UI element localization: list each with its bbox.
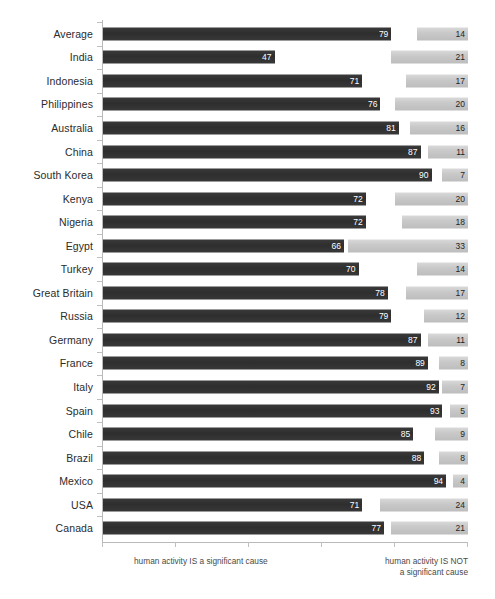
- bar-positive: 72: [103, 216, 366, 229]
- bar-positive: 88: [103, 451, 424, 464]
- bar-negative: 20: [395, 192, 468, 205]
- category-label: France: [60, 358, 93, 369]
- y-axis-tick: [97, 493, 102, 494]
- category-label: Brazil: [66, 452, 93, 463]
- bar-negative: 8: [439, 451, 468, 464]
- bar-negative: 4: [453, 475, 468, 488]
- category-label: Nigeria: [59, 217, 93, 228]
- chart-row: Nigeria7218: [0, 210, 495, 234]
- bar-negative: 17: [406, 286, 468, 299]
- y-axis-tick: [97, 399, 102, 400]
- bar-positive: 90: [103, 169, 432, 182]
- bar-positive: 94: [103, 475, 446, 488]
- category-label: Great Britain: [33, 288, 93, 299]
- category-label: Canada: [56, 523, 93, 534]
- chart-row: Great Britain7817: [0, 281, 495, 305]
- bar-negative: 20: [395, 98, 468, 111]
- bar-negative: 9: [435, 428, 468, 441]
- bar-negative: 21: [391, 51, 468, 64]
- bar-positive: 79: [103, 27, 391, 40]
- y-axis-tick: [97, 187, 102, 188]
- bar-positive: 72: [103, 192, 366, 205]
- chart-row: Germany8711: [0, 328, 495, 352]
- bar-positive: 93: [103, 404, 442, 417]
- bar-negative: 16: [410, 121, 468, 134]
- category-label: USA: [71, 499, 93, 510]
- y-axis-tick: [97, 210, 102, 211]
- chart-row: Kenya7220: [0, 187, 495, 211]
- y-axis-tick: [97, 469, 102, 470]
- category-label: Average: [53, 29, 93, 40]
- chart-row: Brazil888: [0, 446, 495, 470]
- chart-row: India4721: [0, 46, 495, 70]
- chart-row: Mexico944: [0, 469, 495, 493]
- bar-positive: 79: [103, 310, 391, 323]
- y-axis-tick: [97, 375, 102, 376]
- y-axis-tick: [97, 140, 102, 141]
- chart-row: Canada7721: [0, 516, 495, 540]
- category-label: Philippines: [41, 99, 93, 110]
- bar-negative: 7: [442, 169, 468, 182]
- y-axis-tick: [97, 446, 102, 447]
- axis-caption-right-line1: human activity IS NOT: [348, 556, 468, 567]
- bar-negative: 8: [439, 357, 468, 370]
- bar-positive: 89: [103, 357, 428, 370]
- bar-positive: 85: [103, 428, 413, 441]
- bar-positive: 71: [103, 498, 362, 511]
- y-axis-tick: [97, 305, 102, 306]
- bar-positive: 81: [103, 121, 399, 134]
- category-label: Russia: [60, 311, 93, 322]
- bar-negative: 18: [402, 216, 468, 229]
- category-label: Spain: [66, 405, 93, 416]
- axis-caption-right: human activity IS NOT a significant caus…: [348, 556, 468, 578]
- axis-caption-right-line2: a significant cause: [348, 567, 468, 578]
- bar-negative: 14: [417, 263, 468, 276]
- category-label: Australia: [51, 123, 93, 134]
- bar-positive: 66: [103, 239, 344, 252]
- x-axis-line: [102, 542, 468, 543]
- chart-row: France898: [0, 352, 495, 376]
- y-axis-tick: [97, 46, 102, 47]
- category-label: South Korea: [34, 170, 93, 181]
- y-axis-tick: [97, 116, 102, 117]
- chart-row: Philippines7620: [0, 93, 495, 117]
- category-label: India: [70, 52, 93, 63]
- category-label: Turkey: [61, 264, 93, 275]
- y-axis-tick: [97, 163, 102, 164]
- bar-negative: 33: [348, 239, 468, 252]
- category-label: Chile: [69, 429, 93, 440]
- chart-row: Indonesia7117: [0, 69, 495, 93]
- x-axis-tick: [248, 542, 249, 547]
- y-axis-tick: [97, 281, 102, 282]
- bar-positive: 77: [103, 522, 384, 535]
- bar-positive: 71: [103, 74, 362, 87]
- bar-positive: 87: [103, 145, 421, 158]
- bar-positive: 70: [103, 263, 359, 276]
- x-axis-tick: [321, 542, 322, 547]
- chart-row: Australia8116: [0, 116, 495, 140]
- bar-positive: 76: [103, 98, 380, 111]
- bar-negative: 5: [450, 404, 468, 417]
- category-label: Italy: [73, 382, 93, 393]
- bar-negative: 12: [424, 310, 468, 323]
- chart-row: Average7914: [0, 22, 495, 46]
- bar-positive: 78: [103, 286, 388, 299]
- category-label: China: [65, 146, 93, 157]
- bar-negative: 11: [428, 145, 468, 158]
- chart-rows: Average7914India4721Indonesia7117Philipp…: [0, 22, 495, 540]
- chart-row: South Korea907: [0, 163, 495, 187]
- bar-negative: 14: [417, 27, 468, 40]
- chart-row: Spain935: [0, 399, 495, 423]
- y-axis-tick: [97, 22, 102, 23]
- category-label: Kenya: [63, 193, 93, 204]
- bar-negative: 11: [428, 333, 468, 346]
- chart-row: China8711: [0, 140, 495, 164]
- y-axis-tick: [97, 69, 102, 70]
- y-axis-tick: [97, 352, 102, 353]
- chart-row: Turkey7014: [0, 257, 495, 281]
- chart-row: Chile859: [0, 422, 495, 446]
- x-axis-tick: [175, 542, 176, 547]
- chart-row: USA7124: [0, 493, 495, 517]
- y-axis-tick: [97, 257, 102, 258]
- category-label: Egypt: [66, 240, 93, 251]
